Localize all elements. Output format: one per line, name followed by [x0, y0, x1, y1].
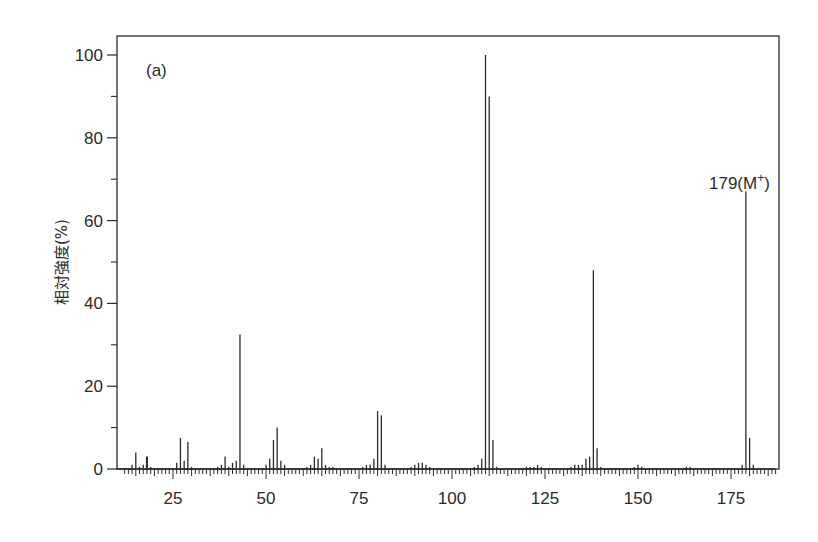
panel-label: (a): [146, 61, 167, 80]
mass-spectrum-chart: 020406080100 255075100125150175 (a) 相対強度…: [0, 0, 818, 542]
y-tick-label: 100: [75, 46, 103, 65]
peaks: [132, 55, 753, 469]
y-tick-label: 40: [84, 294, 103, 313]
x-tick-label: 50: [257, 489, 276, 508]
y-axis-label: 相対強度(%): [53, 219, 71, 305]
molecular-ion-annotation: 179(M+): [709, 171, 770, 193]
y-axis: 020406080100: [75, 46, 117, 479]
y-tick-label: 0: [94, 460, 103, 479]
x-axis: 255075100125150175: [117, 469, 776, 508]
x-tick-label: 100: [438, 489, 466, 508]
x-tick-label: 175: [717, 489, 745, 508]
x-tick-label: 150: [624, 489, 652, 508]
plot-frame: [117, 36, 779, 469]
y-tick-label: 20: [84, 377, 103, 396]
x-tick-label: 75: [350, 489, 369, 508]
y-tick-label: 60: [84, 212, 103, 231]
y-tick-label: 80: [84, 129, 103, 148]
x-tick-label: 125: [531, 489, 559, 508]
x-tick-label: 25: [164, 489, 183, 508]
